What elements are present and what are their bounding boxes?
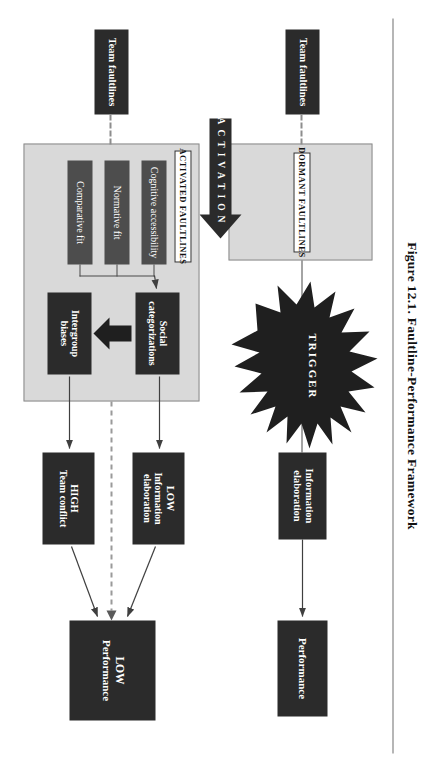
top-information-elaboration-label: Information elaboration	[290, 468, 314, 523]
social-categorizations-label: Social categorizations	[146, 301, 168, 365]
antecedent-box-2: Comparative fit	[67, 160, 92, 264]
antecedent-box-0: Cognitive accessibility	[141, 160, 166, 264]
high-team-conflict-label: Team conflict	[57, 469, 68, 527]
low-performance-level: LOW	[112, 656, 125, 684]
activation-label-text: ACTIVATION	[215, 117, 225, 227]
title-divider	[392, 18, 393, 753]
dormant-faultlines-label: DORMANT FAULTLINES	[293, 152, 310, 252]
low-information-elaboration-box: LOW Information elaboration	[132, 452, 184, 544]
trigger-label: TRIGGER	[301, 318, 323, 414]
low-performance-box: LOW Performance	[69, 620, 155, 720]
high-team-conflict-level: HIGH	[68, 484, 80, 513]
page-title: Figure 12.1. Faultline-Performance Frame…	[403, 0, 419, 771]
top-team-faultlines-box: Team faultlines	[285, 29, 319, 114]
trigger-label-text: TRIGGER	[306, 333, 318, 399]
antecedent-tie-0	[153, 264, 154, 276]
intergroup-biases-box: Intergroup biases	[47, 292, 91, 374]
figure-page: Figure 12.1. Faultline-Performance Frame…	[0, 0, 427, 771]
dashed-direct-effect-arrowhead	[106, 610, 116, 620]
high-team-conflict-box: HIGH Team conflict	[42, 452, 94, 544]
arrow-low-info-elaboration-to-performance	[127, 546, 155, 616]
top-information-elaboration-box: Information elaboration	[278, 452, 326, 539]
activation-label: ACTIVATION	[211, 124, 229, 220]
antecedent-box-1: Normative fit	[104, 160, 129, 264]
figure-canvas: Figure 12.1. Faultline-Performance Frame…	[0, 0, 427, 771]
activated-faultlines-label: ACTIVATED FAULTLINES	[174, 150, 191, 262]
antecedent-label-1: Normative fit	[111, 185, 122, 239]
antecedent-tie-1	[116, 264, 117, 276]
low-info-elab-label: Information elaboration	[141, 472, 163, 524]
top-performance-box: Performance	[277, 620, 327, 716]
low-performance-label: Performance	[99, 639, 111, 700]
antecedent-label-0: Cognitive accessibility	[148, 166, 159, 257]
top-input-connector	[300, 114, 302, 144]
arrow-high-team-conflict-to-performance	[71, 546, 97, 616]
antecedent-tie-2	[79, 264, 80, 276]
low-info-elab-level: LOW	[163, 485, 175, 511]
social-categorizations-box: Social categorizations	[135, 292, 179, 374]
bottom-input-connector	[109, 114, 111, 144]
intergroup-biases-label: Intergroup biases	[58, 309, 80, 356]
bottom-team-faultlines-box: Team faultlines	[94, 29, 128, 114]
antecedent-label-2: Comparative fit	[74, 180, 85, 243]
